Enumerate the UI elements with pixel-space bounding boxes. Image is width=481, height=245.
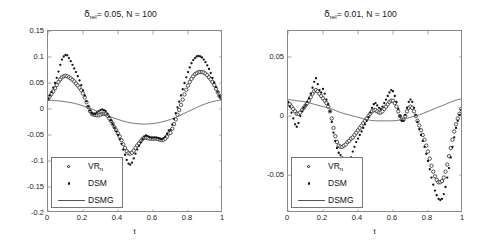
legend-row-vr: VRn <box>292 158 362 175</box>
x-axis-title-right: t <box>287 227 462 236</box>
legend-row-dsm: DSM <box>52 175 122 192</box>
y-tick-label: -0.1 <box>31 156 44 165</box>
y-tick-label: 0.1 <box>34 52 44 61</box>
x-axis-labels-left: 00.20.40.60.81 <box>47 213 222 227</box>
solid-line-icon <box>56 192 86 209</box>
y-axis-labels-left: 0.150.10.050-0.05-0.1-0.15-0.2 <box>0 30 44 212</box>
y-tick-label: -0.2 <box>31 208 44 217</box>
legend-row-vr: VRn <box>52 158 122 175</box>
open-circle-icon <box>56 158 86 175</box>
solid-line-icon <box>296 192 326 209</box>
y-tick-label: -0.05 <box>27 130 44 139</box>
delta-subscript: rel <box>330 14 337 20</box>
title-rest: = 0.05, N = 100 <box>97 9 157 19</box>
legend-label-vr: VRn <box>88 158 103 175</box>
legend-left: VRn DSM DSMG <box>51 157 123 208</box>
filled-dot-icon <box>296 175 326 192</box>
x-tick-label: 0.4 <box>352 213 362 222</box>
panel-right-title: δrel= 0.01, N = 100 <box>240 9 481 20</box>
panel-left: δrel= 0.05, N = 100 0.150.10.050-0.05-0.… <box>0 0 241 245</box>
y-tick-label: 0.15 <box>29 26 44 35</box>
legend-label-vr: VRn <box>328 158 343 175</box>
y-tick-label: 0 <box>40 104 44 113</box>
legend-row-dsm: DSM <box>292 175 362 192</box>
y-tick-label: 0.05 <box>269 52 284 61</box>
x-axis-title-left: t <box>47 227 222 236</box>
open-circle-icon <box>296 158 326 175</box>
legend-row-dsmg: DSMG <box>292 192 362 209</box>
y-tick-label: -0.05 <box>267 170 284 179</box>
delta-subscript: rel <box>90 14 97 20</box>
y-tick-label: 0 <box>280 111 284 120</box>
panel-left-title: δrel= 0.05, N = 100 <box>0 9 241 20</box>
legend-label-dsmg: DSMG <box>328 192 354 209</box>
x-tick-label: 0 <box>45 213 49 222</box>
figure-container: δrel= 0.05, N = 100 0.150.10.050-0.05-0.… <box>0 0 481 245</box>
x-tick-label: 0.4 <box>112 213 122 222</box>
legend-right: VRn DSM DSMG <box>291 157 363 208</box>
x-axis-labels-right: 00.20.40.60.81 <box>287 213 462 227</box>
x-tick-label: 0.2 <box>317 213 327 222</box>
legend-row-dsmg: DSMG <box>52 192 122 209</box>
panel-right: δrel= 0.01, N = 100 0.050-0.05 00.20.40.… <box>240 0 481 245</box>
filled-dot-icon <box>56 175 86 192</box>
y-tick-label: -0.15 <box>27 182 44 191</box>
legend-label-dsmg: DSMG <box>88 192 114 209</box>
x-tick-label: 0 <box>285 213 289 222</box>
x-tick-label: 1 <box>220 213 224 222</box>
y-axis-labels-right: 0.050-0.05 <box>240 30 284 212</box>
legend-label-dsm: DSM <box>88 175 107 192</box>
x-tick-label: 0.2 <box>77 213 87 222</box>
x-tick-label: 0.8 <box>422 213 432 222</box>
title-rest: = 0.01, N = 100 <box>337 9 397 19</box>
x-tick-label: 0.8 <box>182 213 192 222</box>
legend-label-dsm: DSM <box>328 175 347 192</box>
y-tick-label: 0.05 <box>29 78 44 87</box>
x-tick-label: 0.6 <box>147 213 157 222</box>
x-tick-label: 1 <box>460 213 464 222</box>
x-tick-label: 0.6 <box>387 213 397 222</box>
